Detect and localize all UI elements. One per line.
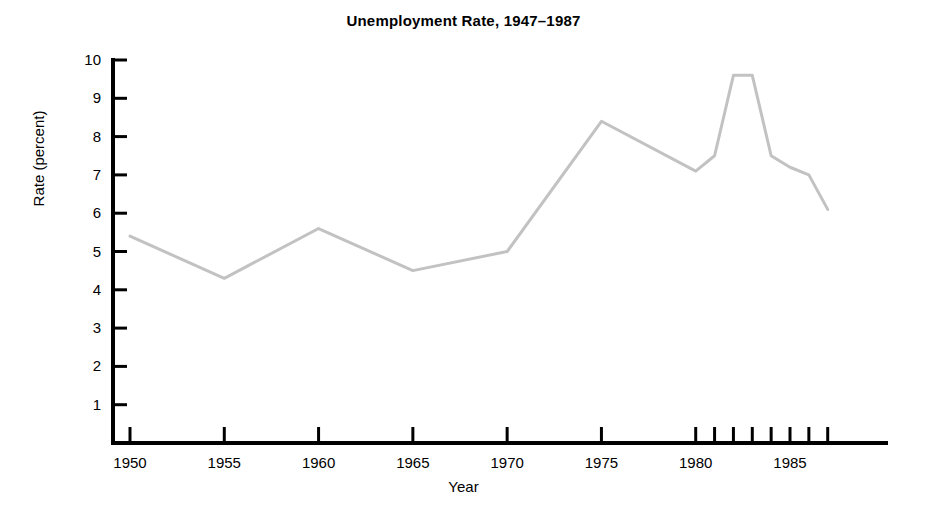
chart-figure: Unemployment Rate, 1947–1987 Rate (perce… [0,0,927,524]
data-line-group [130,75,828,278]
axis-spines [111,58,888,443]
y-axis-ticks [113,60,127,405]
plot-area [0,0,927,524]
x-axis-ticks [130,427,828,443]
